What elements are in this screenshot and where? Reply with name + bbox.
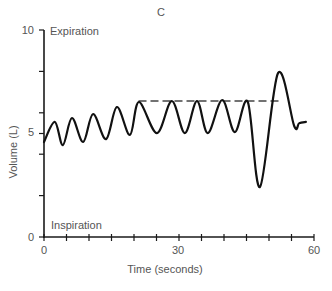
expiration-annotation: Expiration (50, 25, 99, 37)
y-tick-label-10: 10 (22, 24, 34, 36)
y-tick-label-0: 0 (28, 231, 34, 243)
volume-trace-line (44, 72, 306, 187)
y-axis-label: Volume (L) (7, 125, 19, 178)
x-tick-label-0: 0 (41, 244, 47, 256)
chart-title: C (157, 6, 165, 18)
volume-time-chart: C 10 5 0 0 30 60 Expiration Inspiration … (0, 0, 332, 291)
x-tick-label-30: 30 (172, 244, 184, 256)
y-tick-label-5: 5 (28, 126, 34, 138)
x-tick-label-60: 60 (308, 244, 320, 256)
x-axis-label: Time (seconds) (127, 263, 202, 275)
inspiration-annotation: Inspiration (51, 219, 102, 231)
